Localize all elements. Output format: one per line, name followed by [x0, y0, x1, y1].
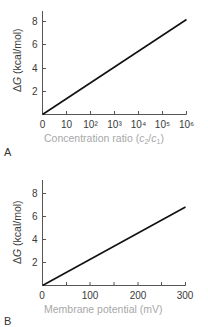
chart-a-xtick-label: 10³ [107, 119, 122, 130]
chart-a-xtick-label: 10 [61, 119, 73, 130]
chart-b-ytick-label: 8 [32, 188, 38, 199]
chart-a-xtick-label: 10⁵ [155, 119, 170, 130]
panel-label-a: A [4, 146, 12, 158]
chart-a-ytick-label: 4 [32, 63, 38, 74]
chart-b-x-axis-title: Membrane potential (mV) [44, 303, 162, 315]
chart-b-x-ticks [67, 282, 186, 286]
chart-a-xtick-label: 10⁶ [179, 119, 194, 130]
figure: 2 4 6 8 0 10 10² 10³ 10⁴ 10⁵ 10⁶ ΔG (kca… [0, 0, 208, 327]
chart-b-ytick-label: 2 [32, 257, 38, 268]
chart-b-xtick-label: 100 [82, 290, 99, 301]
chart-b-ytick-label: 6 [32, 211, 38, 222]
chart-b-series-line [43, 207, 186, 286]
chart-b-xtick-label: 0 [39, 290, 45, 301]
chart-a-ytick-label: 8 [32, 16, 38, 27]
chart-a-xtick-label: 0 [40, 119, 46, 130]
chart-a-y-axis-title: ΔG (kcal/mol) [11, 28, 23, 92]
panel-label-b: B [4, 315, 11, 327]
chart-a-xtick-label: 10⁴ [131, 119, 146, 130]
chart-a: 2 4 6 8 0 10 10² 10³ 10⁴ 10⁵ 10⁶ ΔG (kca… [4, 11, 194, 158]
chart-a-xtick-label: 10² [83, 119, 98, 130]
chart-b-xtick-label: 300 [177, 290, 194, 301]
chart-b-y-axis-title: ΔG (kcal/mol) [11, 200, 23, 264]
chart-a-ytick-label: 2 [32, 86, 38, 97]
chart-a-ytick-label: 6 [32, 39, 38, 50]
chart-b-ytick-label: 4 [32, 234, 38, 245]
chart-a-y-ticks [43, 22, 47, 92]
chart-a-series-line [43, 20, 187, 115]
chart-b-xtick-label: 200 [130, 290, 147, 301]
chart-a-x-axis-title: Concentration ratio (c2/c1) [44, 132, 164, 145]
chart-a-x-ticks [67, 111, 187, 115]
chart-b-y-ticks [43, 194, 47, 263]
chart-b: 2 4 6 8 0 100 200 300 ΔG (kcal/mol) Memb… [4, 180, 194, 327]
